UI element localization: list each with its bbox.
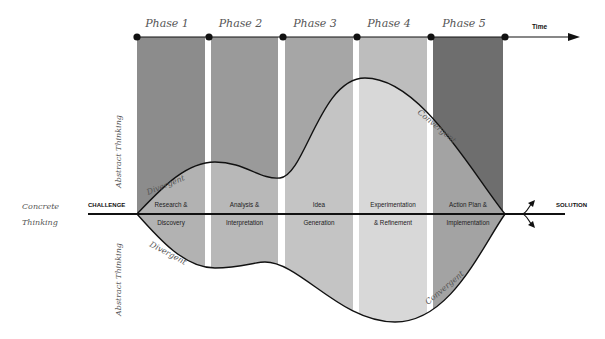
concrete-thinking-label-line1: Concrete	[22, 202, 59, 211]
activity-label-3-line2: Generation	[303, 219, 335, 226]
design-thinking-diagram: Time Phase 1Phase 2Phase 3Phase 4Phase 5…	[0, 0, 605, 339]
challenge-label: CHALLENGE	[88, 202, 125, 208]
timeline-arrow-icon	[568, 33, 580, 41]
lower-curve-fill	[137, 214, 503, 334]
phase-label-1: Phase 1	[144, 17, 189, 30]
abstract-thinking-top-label: Abstract Thinking	[114, 115, 123, 189]
phase-label-3: Phase 3	[292, 17, 337, 30]
activity-label-3-line1: Idea	[313, 201, 326, 208]
timeline-dot-6	[501, 33, 508, 40]
timeline-dot-1	[133, 33, 140, 40]
concrete-thinking-label-line2: Thinking	[22, 218, 58, 227]
lower-fill-phase-5	[433, 214, 503, 334]
activity-label-1-line2: Discovery	[157, 219, 185, 227]
activity-label-2-line1: Analysis &	[230, 201, 260, 209]
activity-label-1-line1: Research &	[155, 201, 189, 208]
timeline-dot-2	[205, 33, 212, 40]
time-label: Time	[532, 23, 547, 30]
activity-label-4-line2: & Refinement	[374, 219, 412, 226]
activity-label-4-line1: Experimentation	[370, 201, 416, 209]
lower-fill-phase-1	[137, 214, 205, 334]
phase-label-4: Phase 4	[366, 17, 411, 30]
lower-fill-phase-3	[285, 214, 353, 334]
activity-label-2-line2: Interpretation	[226, 219, 264, 227]
lower-fill-phase-4	[359, 214, 427, 334]
phase-label-2: Phase 2	[218, 17, 263, 30]
activity-label-5-line1: Action Plan &	[449, 201, 488, 208]
lower-fill-phase-2	[211, 214, 278, 334]
timeline-dot-3	[279, 33, 286, 40]
solution-label: SOLUTION	[556, 202, 587, 208]
activity-label-5-line2: Implementation	[446, 219, 490, 227]
phase-label-5: Phase 5	[441, 17, 486, 30]
timeline-dot-4	[353, 33, 360, 40]
timeline-dot-5	[427, 33, 434, 40]
abstract-thinking-bottom-label: Abstract Thinking	[114, 243, 123, 317]
